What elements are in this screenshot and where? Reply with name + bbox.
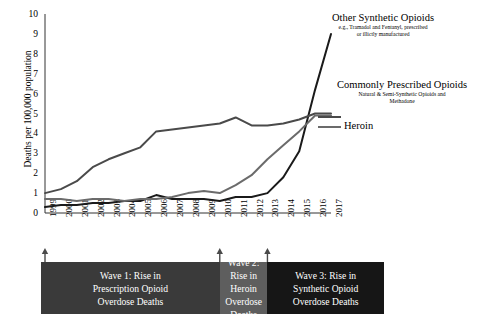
wave-arrow-wave-2 (217, 248, 223, 262)
axis-lines (45, 14, 331, 213)
wave-band-2-line2: Overdose Deaths (224, 295, 264, 321)
wave-band-2: Wave 2: Rise in Heroin Overdose Deaths (220, 262, 268, 314)
wave-band-1-line3: Overdose Deaths (93, 295, 168, 308)
wave-band-3-line3: Overdose Deaths (293, 295, 359, 308)
wave-band-3-line1: Wave 3: Rise in (293, 269, 359, 282)
series-line-commonly-prescribed-opioids (45, 114, 331, 194)
wave-band-1-line1: Wave 1: Rise in (93, 269, 168, 282)
annotation-prescribed-title: Commonly Prescribed Opioids (337, 79, 467, 91)
wave-band-1-line2: Prescription Opioid (93, 282, 168, 295)
opioid-overdose-chart: Deaths per 100,000 population 0123456789… (0, 0, 477, 321)
annotation-synthetic-title: Other Synthetic Opioids (332, 12, 434, 24)
wave-band-1: Wave 1: Rise in Prescription Opioid Over… (41, 262, 220, 314)
annotation-heroin: Heroin (344, 120, 373, 132)
wave-band-3: Wave 3: Rise in Synthetic Opioid Overdos… (267, 262, 384, 314)
wave-arrow-wave-1 (42, 248, 48, 262)
annotation-prescribed: Commonly Prescribed Opioids Natural & Se… (337, 79, 467, 105)
leader-lines (318, 117, 341, 127)
annotation-heroin-title: Heroin (344, 120, 373, 132)
wave-band-3-line2: Synthetic Opioid (293, 282, 359, 295)
annotation-prescribed-subtitle-line2: Methadone (337, 98, 467, 105)
annotation-synthetic-subtitle-line1: e.g., Tramadol and Fentanyl, prescribed (332, 24, 434, 31)
wave-band-2-line1: Wave 2: Rise in Heroin (224, 256, 264, 295)
annotation-synthetic: Other Synthetic Opioids e.g., Tramadol a… (332, 12, 434, 38)
series-line-other-synthetic-opioids (45, 34, 331, 207)
data-series-group (45, 34, 331, 207)
annotation-prescribed-subtitle-line1: Natural & Semi-Synthetic Opioids and (337, 91, 467, 98)
wave-arrow-wave-3 (264, 248, 270, 262)
annotation-synthetic-subtitle-line2: or illictly manufactured (332, 31, 434, 38)
